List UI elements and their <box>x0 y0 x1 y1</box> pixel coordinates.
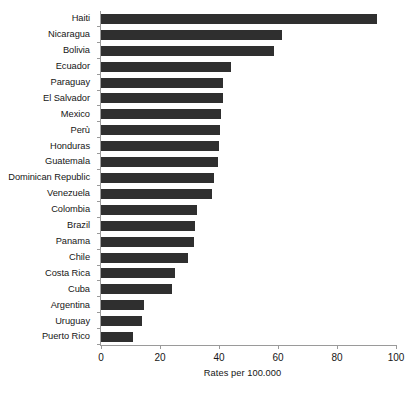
bar <box>101 268 175 278</box>
x-axis-tick <box>101 345 102 349</box>
category-label: Brazil <box>0 218 96 234</box>
category-label: Venezuela <box>0 186 96 202</box>
category-label: Colombia <box>0 202 96 218</box>
bar <box>101 14 377 24</box>
bar-row <box>101 75 396 91</box>
bar-row <box>101 170 396 186</box>
category-label: Uruguay <box>0 313 96 329</box>
category-label: Argentina <box>0 297 96 313</box>
category-label: Cuba <box>0 281 96 297</box>
bar-row <box>101 266 396 282</box>
x-axis-tick-label: 100 <box>388 352 405 363</box>
bar <box>101 189 212 199</box>
category-label: Honduras <box>0 138 96 154</box>
bar-row <box>101 250 396 266</box>
category-label: Costa Rica <box>0 266 96 282</box>
bar-series <box>101 11 396 345</box>
bar-row <box>101 91 396 107</box>
bar <box>101 284 172 294</box>
bar <box>101 62 231 72</box>
category-label: Guatemala <box>0 154 96 170</box>
bar-row <box>101 27 396 43</box>
bar <box>101 221 195 231</box>
bar-row <box>101 43 396 59</box>
bar-row <box>101 59 396 75</box>
bar-row <box>101 154 396 170</box>
bar <box>101 125 220 135</box>
bar-row <box>101 138 396 154</box>
bar-row <box>101 329 396 345</box>
bar <box>101 253 188 263</box>
bar-chart: HaitiNicaraguaBoliviaEcuadorParaguayEl S… <box>0 0 407 394</box>
bar <box>101 93 223 103</box>
bar-row <box>101 11 396 27</box>
bar-row <box>101 297 396 313</box>
bar <box>101 316 142 326</box>
bar-row <box>101 122 396 138</box>
bar-row <box>101 202 396 218</box>
category-label: Nicaragua <box>0 27 96 43</box>
x-axis-tick <box>396 345 397 349</box>
bar <box>101 78 223 88</box>
category-label: Paraguay <box>0 75 96 91</box>
bar <box>101 109 221 119</box>
x-axis-tick-label: 0 <box>98 352 104 363</box>
category-label: Puerto Rico <box>0 329 96 345</box>
x-axis-tick <box>337 345 338 349</box>
category-label: Mexico <box>0 106 96 122</box>
category-label: Chile <box>0 250 96 266</box>
bar <box>101 300 144 310</box>
category-label: Perù <box>0 122 96 138</box>
category-label: Haiti <box>0 11 96 27</box>
x-axis-tick <box>278 345 279 349</box>
x-axis-title: Rates per 100.000 <box>0 368 407 378</box>
x-axis-line <box>100 345 396 346</box>
bar <box>101 332 133 342</box>
x-axis-tick-label: 60 <box>272 352 283 363</box>
bar <box>101 205 197 215</box>
bar <box>101 173 214 183</box>
bar-row <box>101 218 396 234</box>
bar <box>101 141 219 151</box>
x-axis-tick-label: 40 <box>213 352 224 363</box>
x-axis-tick <box>160 345 161 349</box>
category-label: Ecuador <box>0 59 96 75</box>
category-label: Panama <box>0 234 96 250</box>
category-label: El Salvador <box>0 91 96 107</box>
bar <box>101 237 194 247</box>
bar <box>101 157 218 167</box>
bar-row <box>101 281 396 297</box>
category-label: Bolivia <box>0 43 96 59</box>
plot-area: 020406080100 <box>101 11 396 345</box>
bar-row <box>101 313 396 329</box>
category-axis: HaitiNicaraguaBoliviaEcuadorParaguayEl S… <box>0 11 96 345</box>
bar <box>101 30 282 40</box>
x-axis-tick <box>219 345 220 349</box>
x-axis-tick-label: 20 <box>154 352 165 363</box>
x-axis-title-text: Rates per 100.000 <box>126 368 281 378</box>
bar-row <box>101 234 396 250</box>
x-axis-tick-label: 80 <box>331 352 342 363</box>
bar-row <box>101 186 396 202</box>
bar-row <box>101 106 396 122</box>
category-label: Dominican Republic <box>0 170 96 186</box>
bar <box>101 46 274 56</box>
